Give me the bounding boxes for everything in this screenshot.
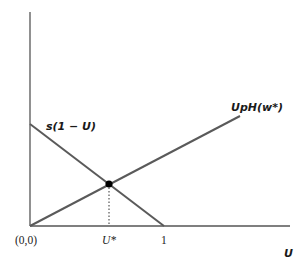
label-uph-w-star: UpH(w*) [231,101,283,114]
diagram-canvas: s(1 − U) UpH(w*) (0,0) U* 1 U [0,0,304,272]
origin-label: (0,0) [15,234,37,247]
label-s-one-minus-u: s(1 − U) [46,120,96,133]
x-axis-label: U [284,247,293,260]
equilibrium-point [105,180,112,187]
x-tick-u-star: U* [102,234,116,246]
x-tick-one: 1 [161,234,167,246]
line-s-one-minus-u [30,124,164,226]
